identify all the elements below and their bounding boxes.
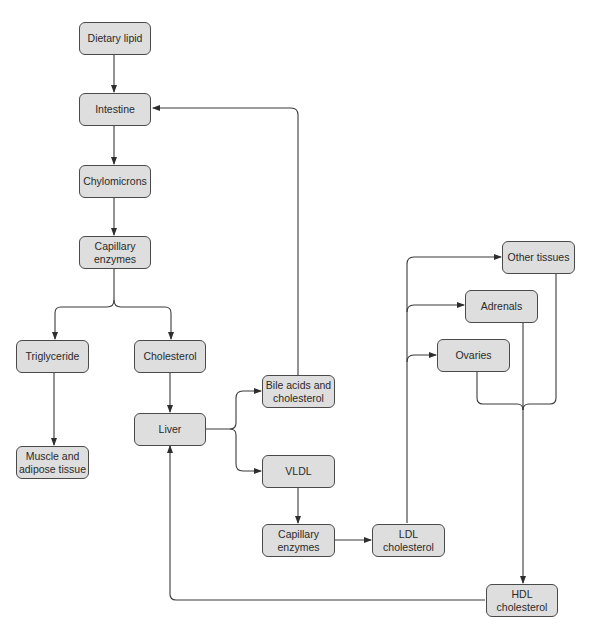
edge-ovaries-hdl [477, 372, 523, 410]
node-adrenals: Adrenals [465, 290, 538, 323]
node-other-tissues: Other tissues [502, 241, 575, 274]
edge-ldl-adrenals [407, 305, 464, 312]
edge-liver-vldl [230, 429, 261, 471]
node-triglyceride: Triglyceride [16, 340, 89, 373]
edge-ldl-ovaries [407, 355, 436, 362]
edge-capillary-cholesterol [114, 300, 171, 339]
lipid-metabolism-flowchart: Dietary lipid Intestine Chylomicrons Cap… [0, 0, 589, 627]
node-capillary-enzymes-1: Capillary enzymes [79, 236, 151, 269]
node-capillary-enzymes-2: Capillary enzymes [262, 524, 335, 557]
node-cholesterol: Cholesterol [134, 340, 206, 373]
node-vldl: VLDL [262, 455, 335, 488]
edge-liver-bile [206, 391, 261, 429]
node-bile-acids: Bile acids and cholesterol [262, 375, 335, 408]
edge-capillary-triglyceride [55, 269, 114, 339]
node-muscle-adipose: Muscle and adipose tissue [16, 446, 89, 479]
node-dietary-lipid: Dietary lipid [79, 22, 151, 55]
node-hdl-cholesterol: HDL cholesterol [486, 584, 558, 617]
node-intestine: Intestine [79, 93, 151, 126]
edge-bile-intestine [153, 108, 298, 375]
node-chylomicrons: Chylomicrons [79, 165, 151, 198]
node-ovaries: Ovaries [437, 339, 510, 372]
node-ldl-cholesterol: LDL cholesterol [372, 524, 445, 557]
node-liver: Liver [134, 413, 206, 446]
